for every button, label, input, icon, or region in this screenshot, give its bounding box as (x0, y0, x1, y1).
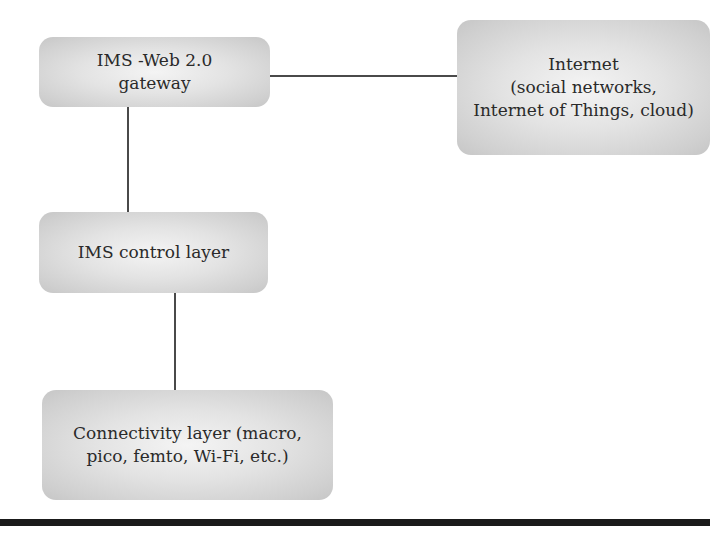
node-ims-control-layer: IMS control layer (39, 212, 268, 293)
edge-gateway-internet (270, 75, 458, 77)
node-label: IMS control layer (78, 241, 229, 264)
edge-control-connectivity (174, 292, 176, 391)
edge-gateway-control (127, 106, 129, 213)
node-internet: Internet (social networks, Internet of T… (457, 20, 710, 155)
bottom-rule-divider (0, 519, 710, 526)
node-ims-web-gateway: IMS -Web 2.0 gateway (39, 37, 270, 107)
node-connectivity-layer: Connectivity layer (macro, pico, femto, … (42, 390, 333, 500)
node-label: Internet (social networks, Internet of T… (473, 53, 694, 122)
node-label: IMS -Web 2.0 gateway (97, 49, 212, 95)
node-label: Connectivity layer (macro, pico, femto, … (73, 422, 302, 468)
